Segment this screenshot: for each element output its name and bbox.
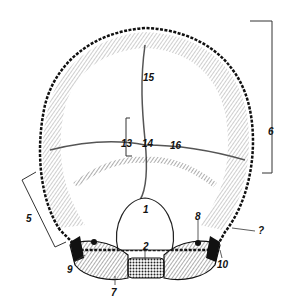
label-13: 13 — [121, 139, 132, 149]
label-16: 16 — [170, 141, 181, 151]
label-7-right: ? — [258, 226, 264, 236]
label-2: 2 — [143, 242, 149, 252]
label-8: 8 — [195, 212, 201, 222]
label-5: 5 — [26, 214, 32, 224]
label-15: 15 — [143, 73, 154, 83]
anatomical-figure: 1 2 5 6 7 ? 8 9 10 13 14 15 16 — [0, 0, 290, 302]
label-1: 1 — [143, 205, 149, 215]
label-7: 7 — [111, 288, 117, 298]
skull-drawing — [0, 0, 290, 302]
label-14: 14 — [142, 139, 153, 149]
label-6: 6 — [268, 127, 274, 137]
label-10: 10 — [217, 260, 228, 270]
label-9: 9 — [67, 265, 73, 275]
